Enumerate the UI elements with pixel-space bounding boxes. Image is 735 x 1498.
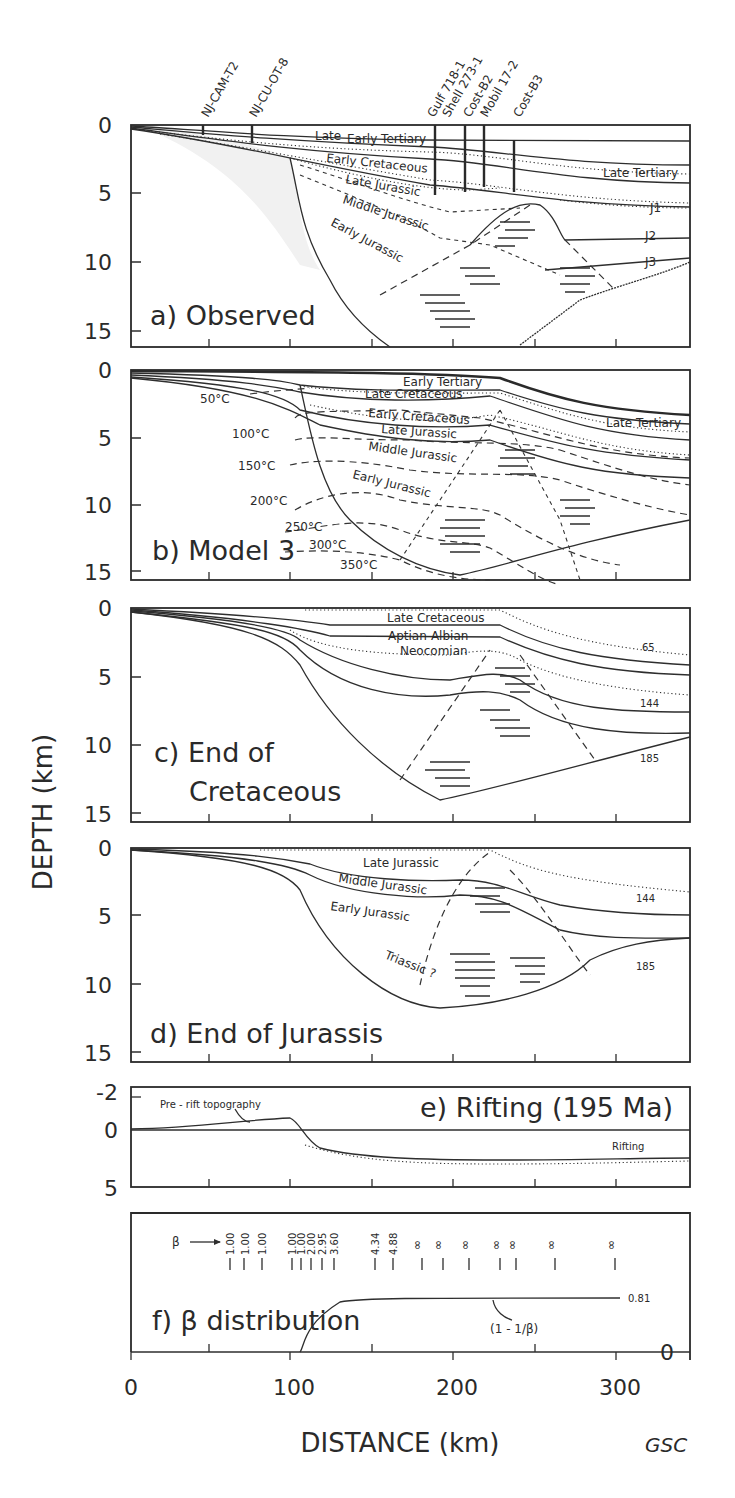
isotherm-label: 300°C [309, 538, 346, 552]
figure-canvas: NJ-CAM-T2 NJ-CU-OT-8 Gulf 718-1 Shell 27… [0, 0, 735, 1498]
label-early-cretaceous: Early Cretaceous [326, 151, 429, 176]
beta-value: 4.34 [370, 1233, 381, 1255]
depth-tick: 5 [98, 904, 112, 929]
beta-value: ∞ [544, 1240, 558, 1250]
label-late-cretaceous: Late Cretaceous [387, 611, 485, 625]
depth-tick: 0 [98, 596, 112, 621]
depth-tick: 0 [104, 1118, 118, 1143]
label-early-tertiary: Early Tertiary [347, 132, 426, 146]
beta-value: ∞ [410, 1240, 424, 1250]
isotherm-label: 100°C [232, 427, 269, 441]
label-early-jurassic: Early Jurassic [330, 899, 411, 924]
isotherm-label: 250°C [285, 520, 322, 534]
isotherm-label: 200°C [250, 494, 287, 508]
depth-tick: 15 [84, 319, 112, 344]
label-neocomian: Neocomian [400, 644, 468, 658]
depth-tick: 10 [84, 973, 112, 998]
beta-value: 1.00 [257, 1233, 268, 1255]
curve-max-label: 0.81 [628, 1293, 650, 1304]
depth-tick: 5 [104, 1176, 118, 1201]
panel-d-end-of-jurassis: 0 5 10 15 Late Jurassic Middle Jurassic … [84, 836, 690, 1066]
panel-e-rifting: -2 0 5 Pre - rift topography Rifting e) … [96, 1080, 690, 1201]
age-label: 65 [642, 642, 655, 653]
beta-value: 2.95 [317, 1233, 328, 1255]
label-j3: J3 [644, 255, 656, 269]
label-middle-jurassic: Middle Jurassic [338, 871, 428, 897]
panel-f-title: f) β distribution [152, 1305, 360, 1336]
panel-b-title: b) Model 3 [152, 535, 295, 566]
label-aptian-albian: Aptian-Albian [388, 629, 468, 643]
panel-e-title: e) Rifting (195 Ma) [420, 1092, 673, 1123]
label-late-jurassic: Late Jurassic [363, 856, 439, 870]
curve-label: (1 - 1/β) [490, 1322, 538, 1336]
panel-a-observed: 0 5 10 15 Late [84, 113, 690, 347]
beta-value: ∞ [431, 1240, 445, 1250]
beta-symbol: β [172, 1235, 180, 1249]
label-early-jurassic: Early Jurassic [351, 467, 432, 500]
beta-value: 3.60 [329, 1233, 340, 1255]
beta-value: 4.88 [388, 1233, 399, 1255]
age-label: 144 [640, 698, 659, 709]
depth-tick: -2 [96, 1080, 118, 1105]
depth-tick: 10 [84, 733, 112, 758]
depth-tick: 5 [98, 665, 112, 690]
depth-tick: 5 [98, 426, 112, 451]
panel-c-title: c) End of [154, 737, 275, 768]
depth-tick: 15 [84, 560, 112, 585]
beta-value: ∞ [489, 1240, 503, 1250]
age-label: 185 [636, 961, 655, 972]
label-late: Late [315, 129, 341, 143]
label-late-tertiary: Late Tertiary [603, 166, 678, 180]
beta-value: 1.00 [240, 1233, 251, 1255]
beta-value: 1.00 [225, 1233, 236, 1255]
label-rifting: Rifting [612, 1141, 644, 1152]
label-triassic: Triassic ? [382, 947, 438, 981]
panel-f-beta-distribution: β 1.00 1.00 1.00 1.00 1.00 2.00 2.95 3.6… [131, 1213, 690, 1365]
depth-tick: 5 [98, 181, 112, 206]
isotherm-label: 50°C [200, 392, 230, 406]
well-label: NJ-CU-OT-8 [246, 55, 291, 119]
panel-a-title: a) Observed [150, 300, 316, 331]
depth-tick: 0 [98, 836, 112, 861]
label-middle-jurassic: Middle Jurassic [368, 439, 458, 465]
well-label: Cost-B3 [510, 72, 545, 119]
depth-tick: 15 [84, 1041, 112, 1066]
zero-label: 0 [660, 1340, 674, 1365]
y-axis-label: DEPTH (km) [28, 734, 58, 891]
label-j2: J2 [644, 229, 656, 243]
credit-label: GSC [645, 1433, 687, 1457]
label-late-tertiary: Late Tertiary [606, 416, 681, 430]
x-axis-label: DISTANCE (km) [301, 1428, 500, 1458]
depth-tick: 0 [98, 113, 112, 138]
isotherm-label: 150°C [238, 459, 275, 473]
beta-value: 2.00 [306, 1233, 317, 1255]
label-pre-rift-topography: Pre - rift topography [160, 1099, 261, 1110]
x-tick: 0 [124, 1375, 138, 1400]
label-late-cretaceous: Late Cretaceous [365, 387, 463, 401]
depth-tick: 0 [98, 358, 112, 383]
isotherm-label: 350°C [340, 558, 377, 572]
panel-c-end-of-cretaceous: 0 5 10 15 Late Cretaceous Aptian-Albian … [84, 596, 690, 827]
depth-tick: 10 [84, 493, 112, 518]
beta-value: ∞ [604, 1240, 618, 1250]
well-labels: NJ-CAM-T2 NJ-CU-OT-8 Gulf 718-1 Shell 27… [198, 54, 545, 120]
panel-d-title: d) End of Jurassis [150, 1018, 383, 1049]
depth-tick: 10 [84, 250, 112, 275]
x-tick: 200 [436, 1375, 478, 1400]
depth-tick: 15 [84, 802, 112, 827]
beta-value: ∞ [505, 1240, 519, 1250]
x-tick: 300 [599, 1375, 641, 1400]
well-label: NJ-CAM-T2 [198, 59, 241, 119]
age-label: 144 [636, 893, 655, 904]
panel-b-model-3: 0 5 10 15 Early Tertiary [84, 358, 690, 585]
beta-values: 1.00 1.00 1.00 1.00 1.00 2.00 2.95 3.60 … [225, 1233, 618, 1255]
x-tick: 100 [273, 1375, 315, 1400]
age-label: 185 [640, 753, 659, 764]
panel-c-title: Cretaceous [189, 776, 341, 807]
beta-value: ∞ [458, 1240, 472, 1250]
label-j1: J1 [649, 201, 661, 215]
